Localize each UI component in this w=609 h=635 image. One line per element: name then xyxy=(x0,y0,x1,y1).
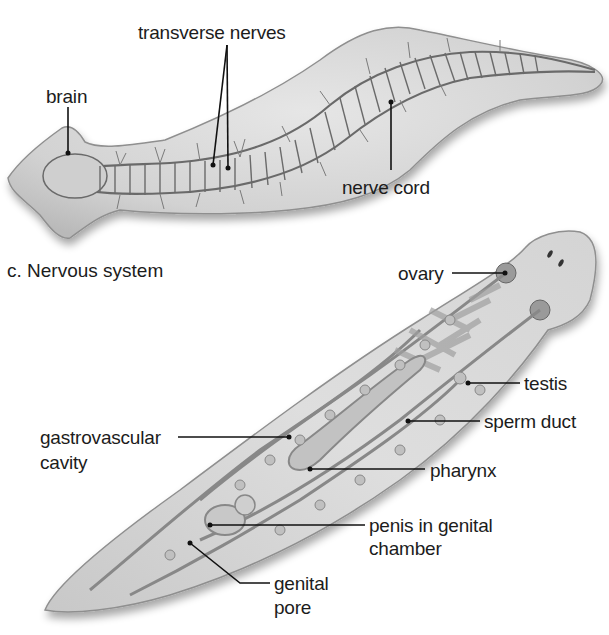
nervous-system-worm xyxy=(8,27,603,238)
label-nerve-cord: nerve cord xyxy=(342,177,430,198)
label-genital-pore-line1: genital xyxy=(274,573,329,594)
label-ovary: ovary xyxy=(398,263,443,284)
seminal-vesicle xyxy=(235,495,255,515)
transverse-nerves-leader-2 xyxy=(227,45,228,168)
label-penis-line1: penis in genital xyxy=(369,515,493,536)
worm-body-outline xyxy=(8,27,603,238)
caption-nervous-system: c. Nervous system xyxy=(7,260,163,281)
label-pharynx: pharynx xyxy=(430,460,496,481)
label-genital-pore-line2: pore xyxy=(274,597,311,618)
label-penis-line2: chamber xyxy=(369,538,442,559)
label-sperm-duct: sperm duct xyxy=(484,411,576,432)
label-brain: brain xyxy=(46,86,87,107)
label-transverse-nerves: transverse nerves xyxy=(138,22,286,43)
brain-ganglia xyxy=(43,154,107,198)
label-gastrovascular-line2: cavity xyxy=(40,452,87,473)
flatworm-diagram xyxy=(0,0,609,635)
label-gastrovascular-line1: gastrovascular xyxy=(40,427,161,448)
label-testis: testis xyxy=(524,373,567,394)
